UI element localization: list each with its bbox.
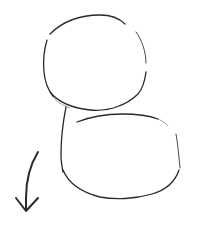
head-circle: [44, 15, 146, 110]
head-top-arc: [50, 15, 125, 34]
head-right-arc: [136, 32, 146, 63]
curved-arrow-down-icon: [16, 152, 38, 211]
body-top-arc: [77, 114, 158, 122]
head-bottom-arc: [50, 72, 146, 110]
body-shape: [61, 107, 180, 199]
body-left-side: [61, 107, 66, 172]
head-left-arc: [44, 40, 53, 96]
body-right-side: [176, 134, 180, 168]
sketch-canvas: [0, 0, 197, 228]
body-bottom-arc: [63, 170, 179, 199]
body-top-right-fade: [158, 119, 168, 126]
